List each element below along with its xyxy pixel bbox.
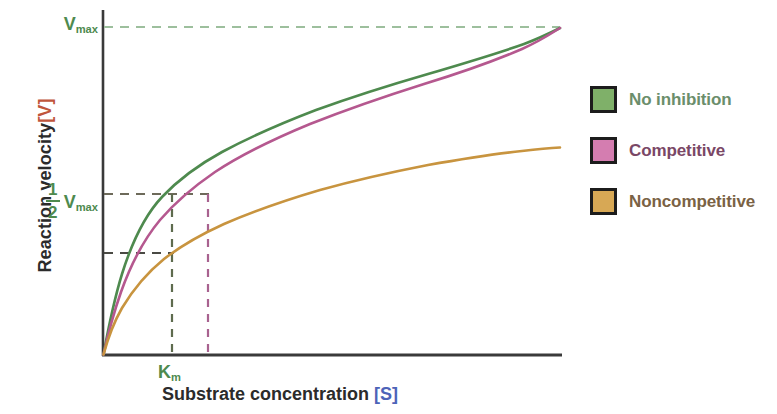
legend-label-competitive: Competitive bbox=[629, 141, 725, 161]
legend: No inhibition Competitive Noncompetitive bbox=[590, 86, 755, 215]
y-axis-unit-bracket: [V] bbox=[35, 98, 55, 122]
x-axis-unit-bracket: [S] bbox=[374, 384, 398, 404]
legend-item-noncompetitive[interactable]: Noncompetitive bbox=[590, 188, 755, 215]
x-axis-title-text: Substrate concentration bbox=[162, 384, 369, 404]
chart-canvas: Reaction velocity[V] Substrate concentra… bbox=[0, 0, 777, 414]
half-vmax-symbol-group: Vmax bbox=[64, 192, 98, 213]
y-tick-label-vmax: Vmax bbox=[64, 14, 98, 35]
fraction-numerator: 1 bbox=[46, 181, 59, 199]
legend-swatch-competitive bbox=[590, 137, 617, 164]
fraction-bar bbox=[46, 200, 60, 202]
fraction-denominator: 2 bbox=[46, 203, 59, 221]
legend-item-competitive[interactable]: Competitive bbox=[590, 137, 755, 164]
x-tick-label-km: Km bbox=[158, 362, 181, 383]
legend-item-no-inhibition[interactable]: No inhibition bbox=[590, 86, 755, 113]
km-symbol: K bbox=[158, 362, 171, 382]
y-tick-label-half-vmax: 1 2 Vmax bbox=[46, 182, 98, 222]
legend-label-no-inhibition: No inhibition bbox=[629, 90, 732, 110]
legend-swatch-no-inhibition bbox=[590, 86, 617, 113]
half-vmax-subscript: max bbox=[76, 200, 98, 212]
half-vmax-symbol: V bbox=[64, 192, 76, 212]
legend-swatch-noncompetitive bbox=[590, 188, 617, 215]
curve-noncompetitive bbox=[104, 148, 561, 355]
legend-label-noncompetitive: Noncompetitive bbox=[629, 192, 755, 212]
vmax-subscript: max bbox=[76, 23, 98, 35]
vmax-symbol: V bbox=[64, 14, 76, 34]
x-axis-title: Substrate concentration [S] bbox=[0, 384, 560, 405]
km-subscript: m bbox=[171, 371, 181, 383]
one-half-fraction: 1 2 bbox=[46, 181, 60, 221]
